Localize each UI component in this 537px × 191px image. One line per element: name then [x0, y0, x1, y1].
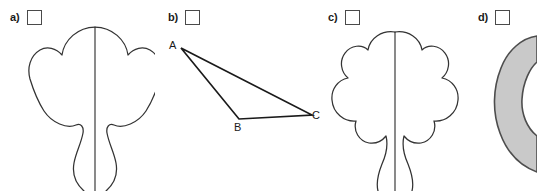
crescent-shape-fill	[494, 36, 537, 172]
option-group-b: b) A B C	[155, 0, 320, 191]
tree-outline-right	[95, 27, 155, 191]
triangle-vertex-label-c: C	[312, 110, 320, 121]
figure-gray-crescent	[470, 0, 537, 191]
triangle-outline	[181, 48, 312, 119]
triangle-vertex-label-a: A	[169, 40, 176, 51]
figure-triangle-abc	[155, 0, 320, 191]
option-group-a: a)	[0, 0, 155, 191]
tree-scalloped-outline-right	[395, 32, 458, 191]
triangle-vertex-label-b: B	[234, 122, 241, 133]
option-group-c: c)	[320, 0, 470, 191]
figure-symmetric-tree-rounded	[0, 0, 155, 191]
tree-scalloped-outline-left	[332, 32, 395, 191]
option-group-d: d)	[470, 0, 537, 191]
worksheet-page: a) b) A B C c)	[0, 0, 537, 191]
tree-outline-left	[29, 27, 95, 191]
figure-symmetric-tree-scalloped	[320, 0, 470, 191]
